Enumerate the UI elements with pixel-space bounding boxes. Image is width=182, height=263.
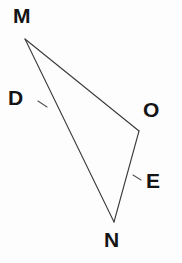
segment-mn (25, 39, 114, 222)
figure-canvas (0, 0, 182, 263)
vertex-label-n: N (104, 229, 119, 250)
vertex-label-o: O (143, 99, 159, 120)
geometry-figure: M D O E N (0, 0, 182, 263)
point-label-d: D (8, 87, 23, 108)
point-label-e: E (146, 170, 160, 191)
segment-mo (25, 39, 139, 131)
tick-mark-e-icon (133, 175, 141, 180)
tick-mark-d-icon (38, 101, 47, 107)
vertex-label-m: M (13, 5, 31, 26)
